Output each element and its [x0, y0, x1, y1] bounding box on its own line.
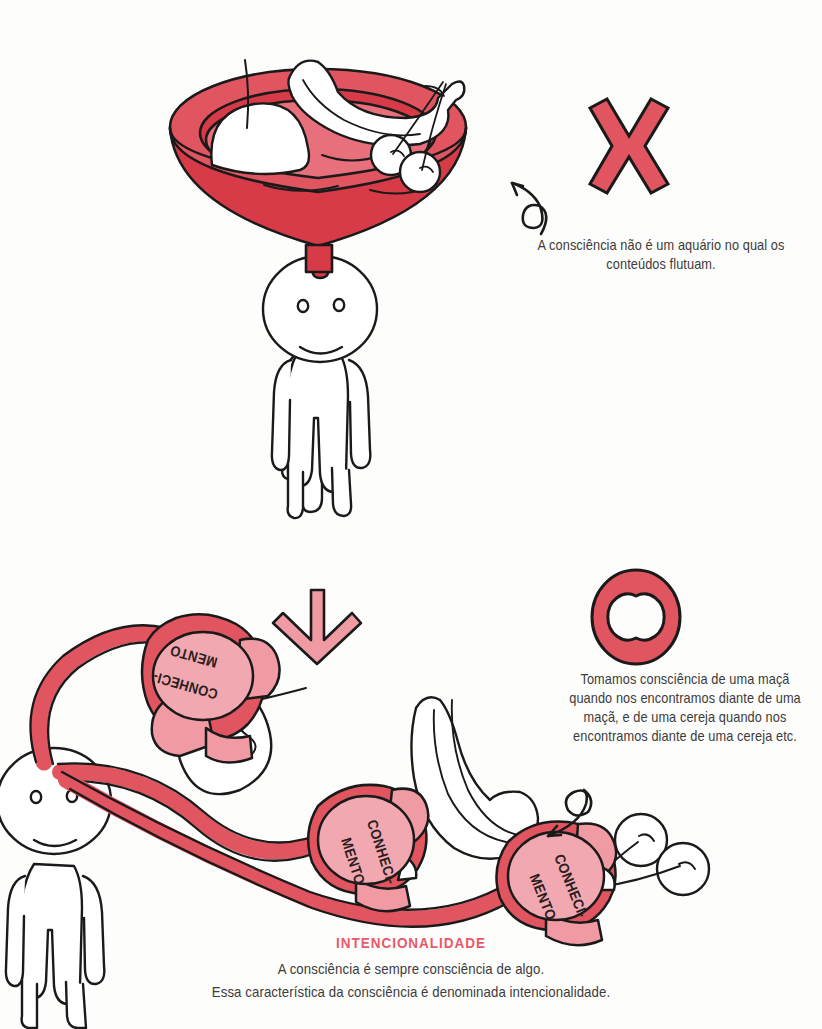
- cross-mark-icon: [590, 99, 668, 193]
- footer-block: INTENCIONALIDADE A consciência é sempre …: [0, 934, 822, 1003]
- illustration-canvas: A consciência não é um aquário no qual o…: [0, 0, 822, 1029]
- hand-label-2-line1: CONHECI-: [363, 818, 400, 887]
- caption-apple-cherry: Tomamos consciência de uma maçã quando n…: [557, 670, 812, 747]
- footer-line-1: A consciência é sempre consciência de al…: [49, 958, 772, 980]
- down-arrow: [273, 590, 361, 664]
- hand-label-1-line1: CONHECI-: [151, 668, 220, 703]
- curly-arrow-top: [512, 183, 546, 234]
- top-figure: [263, 256, 377, 518]
- hand-label-2-line2: MENTO: [338, 836, 369, 887]
- caption-aquarium: A consciência não é um aquário no qual o…: [516, 236, 806, 274]
- hand-label-3-line2: MENTO: [526, 871, 560, 922]
- footer-title: INTENCIONALIDADE: [41, 934, 781, 951]
- hand-label-1-line2: MENTO: [168, 642, 219, 671]
- footer-line-2: Essa característica da consciência é den…: [49, 981, 772, 1003]
- circle-mark-icon: [592, 570, 680, 664]
